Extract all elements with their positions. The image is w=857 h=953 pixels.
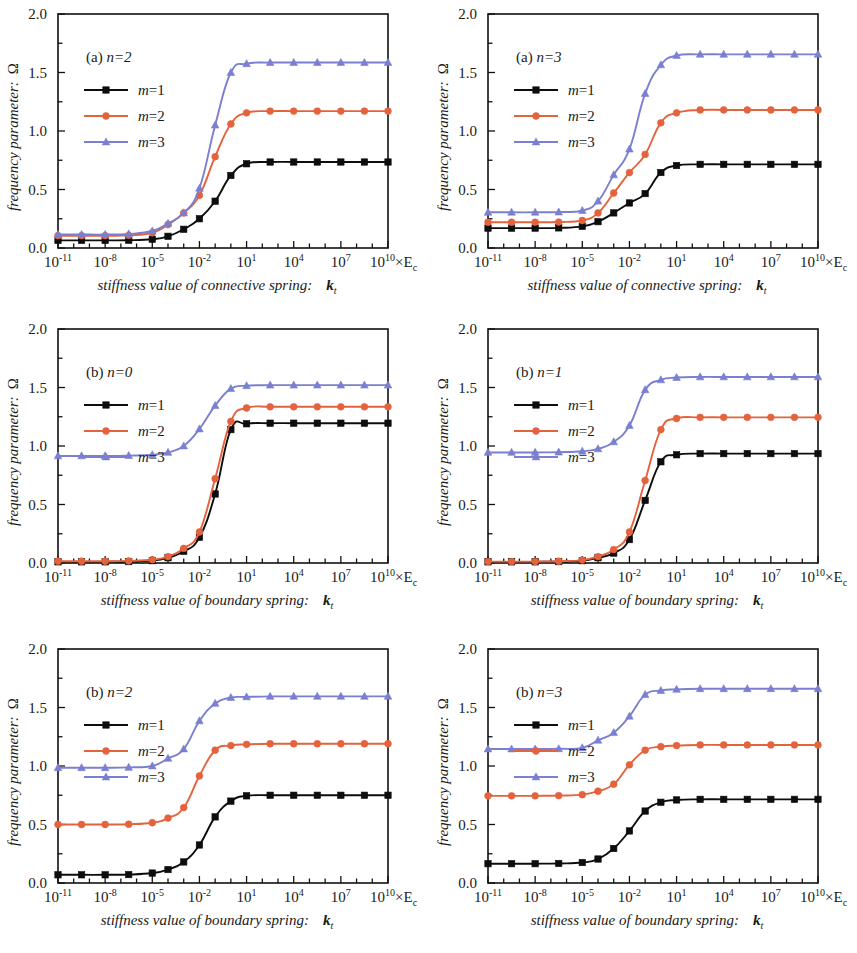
data-point-marker (243, 741, 250, 748)
legend-label-m=3: m=3 (138, 449, 165, 465)
data-point-marker (212, 153, 219, 160)
data-point-marker (228, 798, 234, 804)
panel-label: (a) n=2 (86, 49, 132, 66)
x-tick-label: 101 (667, 887, 687, 905)
data-point-marker (165, 553, 172, 560)
data-point-marker (103, 402, 109, 408)
data-point-marker (595, 788, 602, 795)
data-point-marker (78, 558, 85, 565)
data-point-marker (532, 792, 539, 799)
data-point-marker (768, 450, 774, 456)
data-point-marker (103, 722, 109, 728)
data-point-marker (744, 796, 750, 802)
data-point-marker (196, 216, 202, 222)
data-point-marker (227, 742, 234, 749)
legend-label-m=2: m=2 (568, 743, 595, 759)
legend-label-m=3: m=3 (568, 769, 595, 785)
subplot-panel-b-n1: 0.00.51.01.52.010-1110-810-510-210110410… (430, 315, 857, 635)
data-point-marker (508, 219, 515, 226)
data-point-marker (385, 740, 392, 747)
x-tick-label: 10-5 (571, 887, 594, 905)
data-point-marker (791, 414, 798, 421)
data-point-marker (533, 428, 540, 435)
series-line-m=2 (488, 417, 818, 562)
data-point-marker (642, 747, 649, 754)
data-point-marker (212, 475, 219, 482)
data-point-marker (697, 450, 703, 456)
data-point-marker (533, 402, 539, 408)
data-point-marker (485, 860, 491, 866)
x-axis-title: stiffness value of connective spring:kt (527, 277, 766, 296)
data-point-marker (555, 558, 562, 565)
y-axis-title: frequency parameter:Ω (5, 378, 21, 526)
data-point-marker (595, 218, 601, 224)
data-point-marker (337, 108, 344, 115)
data-point-marker (337, 403, 344, 410)
x-tick-label: 107 (331, 887, 351, 905)
data-point-marker (697, 161, 703, 167)
x-tick-label: 1010×Ec (800, 252, 848, 273)
data-point-marker (595, 553, 602, 560)
y-tick-label: 2.0 (28, 641, 47, 657)
x-tick-label: 10-2 (188, 567, 211, 585)
data-point-marker (385, 108, 392, 115)
data-point-marker (673, 162, 679, 168)
data-point-marker (211, 699, 219, 706)
data-point-marker (165, 815, 172, 822)
data-point-marker (610, 190, 617, 197)
panel-label: (a) n=3 (516, 49, 562, 66)
x-tick-label: 101 (667, 567, 687, 585)
data-point-marker (657, 426, 664, 433)
x-axis-title: stiffness value of boundary spring:kt (531, 592, 764, 611)
series-line-m=2 (58, 744, 388, 825)
plot-canvas-panel-b-n0: 0.00.51.01.52.010-1110-810-510-210110410… (0, 315, 430, 630)
data-point-marker (791, 450, 797, 456)
y-tick-label: 0.5 (458, 497, 477, 513)
data-point-marker (744, 414, 751, 421)
data-point-marker (243, 793, 249, 799)
series-line-m=1 (488, 164, 818, 228)
data-point-marker (212, 198, 218, 204)
data-point-marker (485, 219, 492, 226)
x-tick-label: 10-5 (571, 567, 594, 585)
data-point-marker (267, 403, 274, 410)
x-tick-label: 107 (761, 887, 781, 905)
data-point-marker (361, 740, 368, 747)
data-point-marker (103, 113, 110, 120)
data-point-marker (767, 742, 774, 749)
data-point-marker (555, 219, 562, 226)
y-tick-label: 0.5 (458, 817, 477, 833)
data-point-marker (212, 747, 219, 754)
y-tick-label: 2.0 (458, 6, 477, 22)
data-point-marker (791, 796, 797, 802)
series-line-m=1 (58, 421, 388, 562)
data-point-marker (125, 557, 132, 564)
data-point-marker (103, 428, 110, 435)
data-point-marker (314, 159, 320, 165)
series-line-m=1 (488, 453, 818, 561)
data-point-marker (243, 109, 250, 116)
data-point-marker (338, 792, 344, 798)
data-point-marker (533, 113, 540, 120)
data-point-marker (243, 161, 249, 167)
y-tick-label: 0.5 (28, 497, 47, 513)
subplot-panel-a-n3: 0.00.51.01.52.010-1110-810-510-210110410… (430, 0, 857, 315)
panel-label: (b) n=1 (516, 364, 562, 381)
y-axis-title: frequency parameter:Ω (5, 698, 21, 846)
data-point-marker (338, 159, 344, 165)
data-point-marker (791, 107, 798, 114)
data-point-marker (744, 161, 750, 167)
data-point-marker (768, 796, 774, 802)
legend-label-m=1: m=1 (568, 82, 595, 98)
data-point-marker (267, 420, 273, 426)
legend-label-m=2: m=2 (138, 423, 165, 439)
y-tick-label: 0.5 (458, 182, 477, 198)
x-tick-label: 10-2 (618, 887, 641, 905)
data-point-marker (485, 558, 492, 565)
data-point-marker (485, 792, 492, 799)
x-axis-title: stiffness value of boundary spring:kt (531, 912, 764, 931)
data-point-marker (149, 819, 156, 826)
legend-label-m=3: m=3 (568, 134, 595, 150)
data-point-marker (673, 415, 680, 422)
data-point-marker (291, 420, 297, 426)
